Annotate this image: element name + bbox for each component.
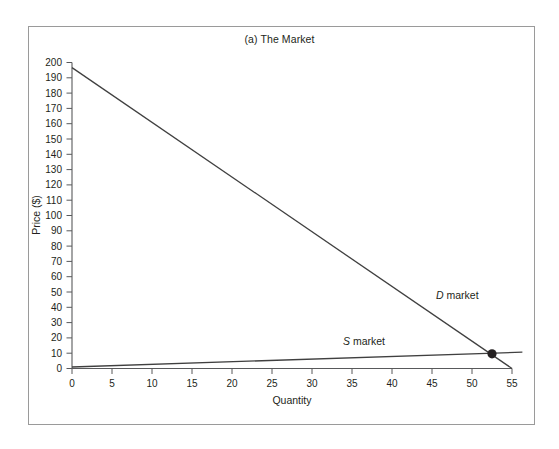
supply-label-text: market bbox=[350, 335, 385, 347]
y-tick-label: 200 bbox=[45, 57, 62, 68]
demand-label-text: market bbox=[444, 289, 479, 301]
x-axis-title: Quantity bbox=[272, 394, 312, 406]
x-tick-label: 50 bbox=[466, 378, 478, 389]
x-tick-label: 20 bbox=[226, 378, 238, 389]
y-tick-label: 60 bbox=[51, 271, 63, 282]
y-tick-label: 80 bbox=[51, 241, 63, 252]
y-axis-title: Price ($) bbox=[30, 195, 42, 235]
y-tick-label: 120 bbox=[45, 179, 62, 190]
x-tick-label: 15 bbox=[186, 378, 198, 389]
y-tick-label: 190 bbox=[45, 72, 62, 83]
y-tick-label: 170 bbox=[45, 103, 62, 114]
figure-panel: (a) The Market bbox=[0, 0, 559, 449]
y-axis-tick-labels: 0 10 20 30 40 50 60 70 80 90 100 110 120… bbox=[45, 57, 62, 374]
equilibrium-point-marker bbox=[487, 349, 496, 358]
y-tick-label: 40 bbox=[51, 302, 63, 313]
x-tick-label: 10 bbox=[146, 378, 158, 389]
x-axis-ticks bbox=[72, 369, 512, 375]
y-tick-label: 0 bbox=[56, 363, 62, 374]
y-axis-ticks bbox=[67, 63, 73, 369]
y-tick-label: 110 bbox=[46, 195, 62, 206]
x-axis-tick-labels: 0 5 10 15 20 25 30 35 40 45 50 55 bbox=[69, 378, 518, 389]
x-tick-label: 0 bbox=[69, 378, 75, 389]
y-tick-label: 90 bbox=[51, 225, 63, 236]
curve-labels: D market S market bbox=[343, 289, 479, 347]
y-tick-label: 180 bbox=[45, 88, 62, 99]
y-tick-label: 50 bbox=[51, 287, 63, 298]
demand-curve bbox=[72, 68, 512, 369]
y-axis-group: 0 10 20 30 40 50 60 70 80 90 100 110 120… bbox=[30, 57, 72, 374]
y-tick-label: 70 bbox=[51, 256, 63, 267]
y-tick-label: 130 bbox=[45, 164, 62, 175]
x-tick-label: 25 bbox=[266, 378, 278, 389]
supply-curve-label: S market bbox=[343, 335, 385, 347]
market-supply-demand-chart: 0 10 20 30 40 50 60 70 80 90 100 110 120… bbox=[0, 0, 559, 449]
y-tick-label: 100 bbox=[45, 210, 62, 221]
x-tick-label: 30 bbox=[306, 378, 318, 389]
x-tick-label: 35 bbox=[346, 378, 358, 389]
x-tick-label: 55 bbox=[506, 378, 518, 389]
y-tick-label: 160 bbox=[45, 118, 62, 129]
data-curves bbox=[72, 68, 522, 369]
supply-label-symbol: S bbox=[343, 335, 350, 347]
demand-curve-label: D market bbox=[436, 289, 479, 301]
x-tick-label: 45 bbox=[426, 378, 438, 389]
y-tick-label: 150 bbox=[45, 134, 62, 145]
y-tick-label: 140 bbox=[45, 149, 62, 160]
supply-curve bbox=[72, 352, 522, 367]
y-tick-label: 20 bbox=[51, 332, 63, 343]
x-axis-group: 0 5 10 15 20 25 30 35 40 45 50 55 Quanti… bbox=[69, 369, 518, 407]
y-tick-label: 30 bbox=[51, 317, 63, 328]
y-tick-label: 10 bbox=[51, 348, 63, 359]
x-tick-label: 5 bbox=[109, 378, 115, 389]
x-tick-label: 40 bbox=[386, 378, 398, 389]
